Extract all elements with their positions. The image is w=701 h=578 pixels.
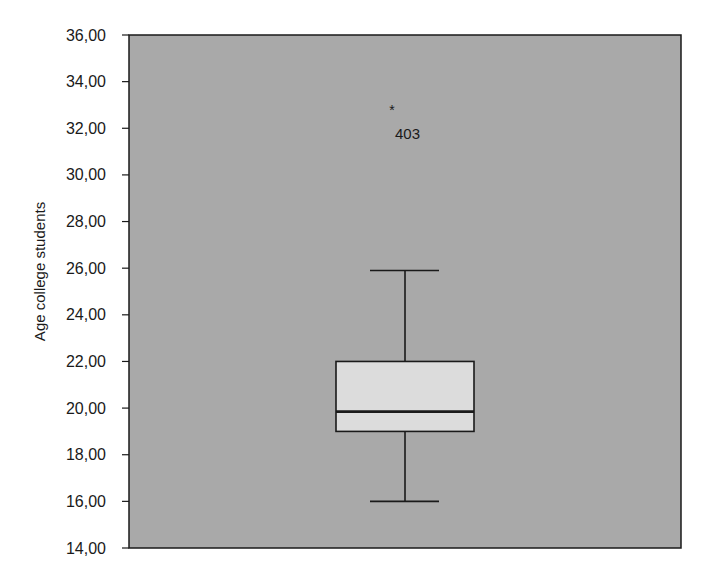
interquartile-box (336, 361, 474, 431)
y-tick-label: 26,00 (66, 260, 106, 277)
y-tick-label: 36,00 (66, 27, 106, 44)
y-tick-label: 30,00 (66, 166, 106, 183)
y-tick-label: 28,00 (66, 213, 106, 230)
y-tick-label: 18,00 (66, 446, 106, 463)
y-tick-label: 20,00 (66, 400, 106, 417)
y-tick-label: 22,00 (66, 353, 106, 370)
y-tick-label: 14,00 (66, 540, 106, 557)
outlier-marker-asterisk: * (389, 102, 395, 118)
y-tick-label: 24,00 (66, 306, 106, 323)
boxplot-chart: 14,0016,0018,0020,0022,0024,0026,0028,00… (0, 0, 701, 578)
y-axis-title: Age college students (31, 202, 48, 341)
y-tick-label: 16,00 (66, 493, 106, 510)
outlier-label: 403 (395, 125, 420, 142)
y-tick-label: 34,00 (66, 73, 106, 90)
y-axis: 14,0016,0018,0020,0022,0024,0026,0028,00… (66, 27, 129, 557)
y-tick-label: 32,00 (66, 120, 106, 137)
